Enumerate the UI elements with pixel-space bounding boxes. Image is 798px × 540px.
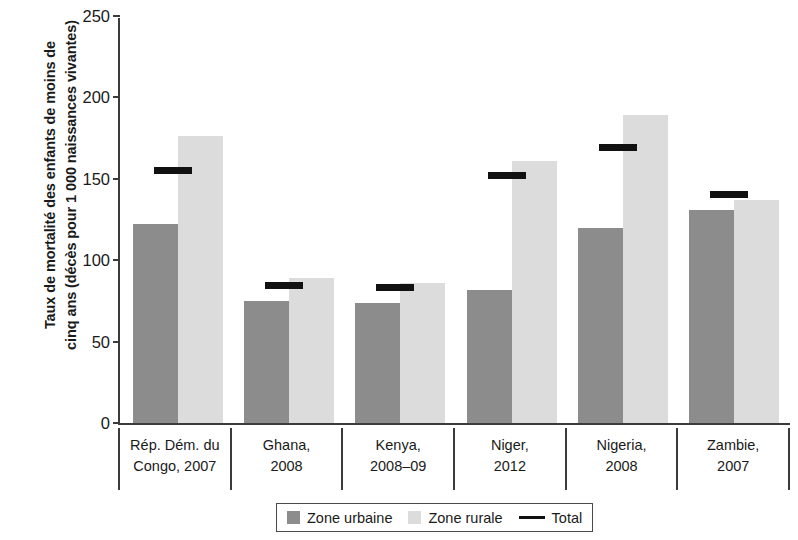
x-axis-label-line: 2007 (678, 456, 788, 477)
x-axis-label-3: Kenya,2008–09 (341, 428, 453, 490)
bar-rural (178, 136, 223, 423)
y-tick-label: 100 (58, 250, 110, 270)
bar-group (456, 18, 567, 423)
x-axis-label-2: Ghana,2008 (230, 428, 342, 490)
bar-group (122, 18, 233, 423)
y-tick-mark (113, 259, 120, 261)
legend-label: Total (552, 510, 583, 526)
x-axis-end-divider (788, 428, 790, 490)
bar-urban (355, 303, 400, 423)
x-axis-label-line: Kenya, (343, 435, 453, 456)
bar-group (679, 18, 790, 423)
x-axis-label-line: Congo, 2007 (120, 456, 230, 477)
bar-rural (623, 115, 668, 423)
legend-label: Zone rurale (428, 510, 502, 526)
total-marker (154, 167, 192, 174)
x-axis-label-line: Ghana, (232, 435, 342, 456)
bar-pair (345, 18, 456, 423)
y-tick-mark (113, 341, 120, 343)
bar-rural (400, 283, 445, 423)
x-axis-label-1: Rép. Dém. duCongo, 2007 (118, 428, 230, 490)
bar-pair (679, 18, 790, 423)
bar-rural (734, 200, 779, 423)
bar-groups (122, 18, 790, 423)
y-tick-label: 150 (58, 169, 110, 189)
bar-pair (456, 18, 567, 423)
chart-legend: Zone urbaineZone ruraleTotal (276, 503, 593, 532)
y-tick-mark (113, 96, 120, 98)
legend-label: Zone urbaine (307, 510, 392, 526)
bar-group (345, 18, 456, 423)
bar-urban (244, 301, 289, 423)
y-tick-label: 200 (58, 87, 110, 107)
bar-pair (567, 18, 678, 423)
x-axis-label-line: 2008–09 (343, 456, 453, 477)
y-tick-mark (113, 178, 120, 180)
x-axis-label-4: Niger,2012 (453, 428, 565, 490)
x-axis-label-line: 2008 (232, 456, 342, 477)
y-tick-label: 0 (58, 413, 110, 433)
x-axis-label-line: Rép. Dém. du (120, 435, 230, 456)
x-axis-label-line: Zambie, (678, 435, 788, 456)
bar-rural (289, 278, 334, 423)
total-marker (710, 191, 748, 198)
bar-group (233, 18, 344, 423)
total-marker (488, 172, 526, 179)
x-axis-label-line: Nigeria, (567, 435, 677, 456)
x-axis-label-line: 2008 (567, 456, 677, 477)
total-marker (599, 144, 637, 151)
x-axis-categories: Rép. Dém. duCongo, 2007Ghana,2008Kenya,2… (118, 428, 790, 490)
x-axis-label-5: Nigeria,2008 (565, 428, 677, 490)
legend-square-rural-icon (408, 511, 421, 524)
bar-pair (122, 18, 233, 423)
legend-line-icon (519, 516, 545, 519)
total-marker (376, 284, 414, 291)
plot-area: 250200150100500 (118, 18, 790, 425)
y-tick-label: 50 (58, 332, 110, 352)
bar-urban (467, 290, 512, 423)
y-tick-mark (113, 15, 120, 17)
legend-item-2: Zone rurale (408, 510, 502, 526)
bar-urban (689, 210, 734, 423)
bar-pair (233, 18, 344, 423)
x-axis-label-line: Niger, (455, 435, 565, 456)
chart-container: Taux de mortalité des enfants de moins d… (0, 0, 798, 540)
bar-urban (578, 228, 623, 423)
legend-item-3: Total (519, 510, 583, 526)
bar-rural (512, 161, 557, 423)
x-axis-label-line: 2012 (455, 456, 565, 477)
y-tick-mark (113, 422, 120, 424)
legend-item-1: Zone urbaine (287, 510, 392, 526)
total-marker (265, 282, 303, 289)
legend-square-urban-icon (287, 511, 300, 524)
y-tick-label: 250 (58, 6, 110, 26)
bar-group (567, 18, 678, 423)
bar-urban (133, 224, 178, 423)
x-axis-label-6: Zambie,2007 (676, 428, 788, 490)
